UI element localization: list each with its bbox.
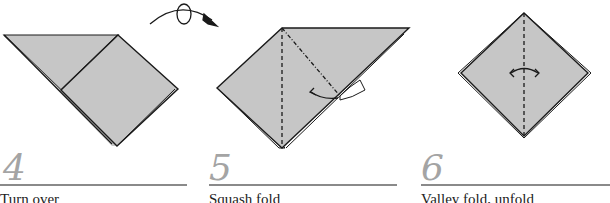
step-4-divider xyxy=(0,184,187,186)
step-5-caption: Squash fold xyxy=(209,190,280,203)
step-5-figure xyxy=(217,28,409,148)
step-number-4: 4 xyxy=(3,150,26,186)
step-6-divider xyxy=(421,184,610,186)
turn-over-arrow-icon xyxy=(150,4,217,26)
step-5-divider xyxy=(209,184,397,186)
step-4-figure xyxy=(4,35,178,146)
step-number-5: 5 xyxy=(209,150,232,186)
diagram-art xyxy=(0,0,610,203)
step-4-caption: Turn over xyxy=(0,190,59,203)
step-number-6: 6 xyxy=(421,150,444,186)
step-6-figure xyxy=(458,13,591,138)
step-6-caption: Valley fold, unfold xyxy=(421,190,534,203)
